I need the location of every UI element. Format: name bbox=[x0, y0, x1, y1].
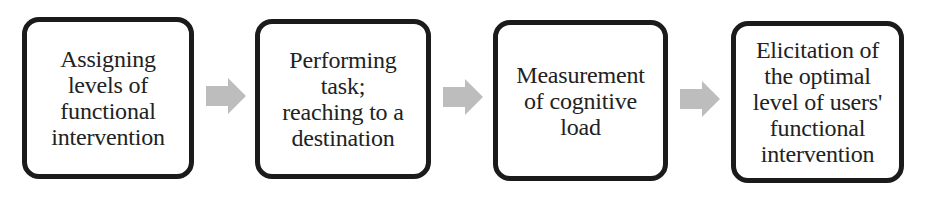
step-box-performing-task: Performing task; reaching to a destinati… bbox=[255, 19, 431, 179]
right-arrow-icon bbox=[680, 81, 720, 117]
step-box-measurement-cognitive-load: Measurement of cognitive load bbox=[493, 20, 668, 181]
step-box-elicitation-optimal-level: Elicitation of the optimal level of user… bbox=[731, 21, 904, 183]
right-arrow-icon bbox=[206, 78, 246, 114]
step-label: Assigning levels of functional intervent… bbox=[51, 46, 165, 150]
step-label: Performing task; reaching to a destinati… bbox=[282, 47, 403, 151]
right-arrow-icon bbox=[443, 79, 483, 115]
step-label: Elicitation of the optimal level of user… bbox=[753, 37, 882, 167]
step-box-assigning-levels: Assigning levels of functional intervent… bbox=[22, 17, 194, 179]
step-label: Measurement of cognitive load bbox=[516, 62, 644, 140]
